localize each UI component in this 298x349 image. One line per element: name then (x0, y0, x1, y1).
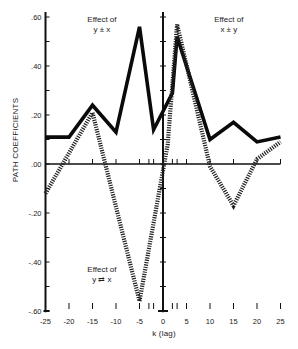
y-axis-title: PATH COEFFICIENTS (11, 98, 20, 182)
x-tick-label: 20 (253, 317, 261, 326)
y-tick-label: .40 (31, 62, 41, 71)
annotation-line1: Effect of (87, 265, 117, 274)
annotation-line2: y ± x (93, 25, 110, 34)
y-tick-label: -.40 (29, 258, 42, 267)
axes (44, 12, 281, 312)
x-tick-label: -5 (136, 317, 143, 326)
y-tick-label: .60 (31, 13, 41, 22)
annotation-line2: y ⇄ x (92, 275, 111, 284)
annotation-line1: Effect of (214, 15, 244, 24)
y-tick-label: .20 (31, 111, 41, 120)
y-tick-label: -.20 (29, 209, 42, 218)
x-tick-label: -10 (111, 317, 122, 326)
annotation-line1: Effect of (87, 15, 117, 24)
x-tick-label: 25 (276, 317, 284, 326)
x-axis-title: k (lag) (152, 329, 176, 338)
annotation-line2: x ± y (220, 25, 237, 34)
x-tick-label: -20 (64, 317, 75, 326)
y-tick-label: .00 (31, 160, 41, 169)
x-tick-label: 0 (161, 317, 165, 326)
x-tick-label: 15 (229, 317, 237, 326)
path-coefficients-chart: .60.40.20.00-.20-.40-.60-25-20-15-10-505… (0, 0, 298, 349)
x-tick-label: 10 (206, 317, 214, 326)
y-tick-label: -.60 (29, 307, 42, 316)
labels-group: .60.40.20.00-.20-.40-.60-25-20-15-10-505… (29, 13, 285, 326)
x-tick-label: -25 (40, 317, 51, 326)
x-tick-label: -15 (87, 317, 98, 326)
x-tick-label: 5 (184, 317, 188, 326)
